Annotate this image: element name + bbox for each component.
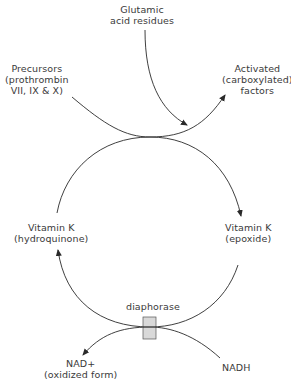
vitamin-k-cycle-diagram [0, 0, 291, 390]
top-crossing-lower-arc [120, 128, 160, 143]
nad-oxidized-label: NAD+ (oxidized form) [44, 358, 117, 380]
vitamin-k-hydroquinone-label: Vitamin K (hydroquinone) [14, 222, 88, 244]
nadh-label: NADH [222, 362, 250, 373]
hydroquinone-to-epoxide-arrow [57, 137, 241, 216]
diaphorase-label: diaphorase [126, 301, 180, 312]
glutamic-acid-arrow [145, 30, 187, 125]
diaphorase-enzyme-box [143, 317, 156, 339]
precursors-label: Precursors (prothrombin VII, IX & X) [5, 63, 69, 96]
precursors-to-activated-arrow [72, 95, 225, 137]
activated-factors-label: Activated (carboxylated) factors [222, 63, 291, 96]
vitamin-k-epoxide-label: Vitamin K (epoxide) [225, 222, 272, 244]
epoxide-to-hydroquinone-arrow [58, 250, 238, 327]
glutamic-acid-label: Glutamic acid residues [110, 4, 174, 26]
